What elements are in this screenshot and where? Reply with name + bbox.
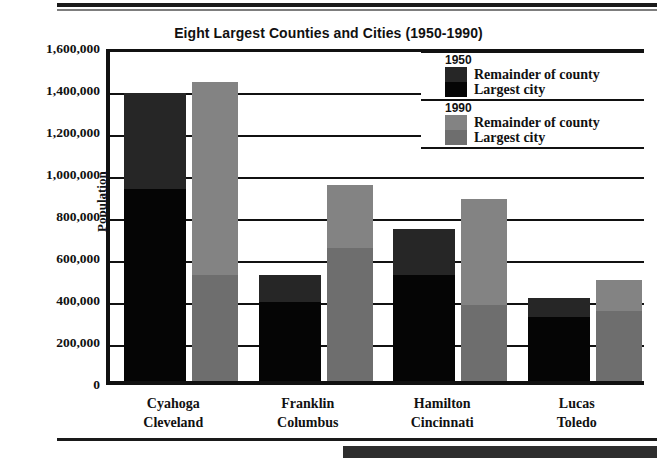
legend-swatch: [445, 115, 467, 130]
segment-1950-largest-city: [259, 302, 321, 381]
top-divider-thick: [57, 3, 657, 7]
legend-item-label: Largest city: [474, 82, 545, 97]
y-axis-tick: 1,600,000: [6, 41, 100, 57]
segment-1950-largest-city: [528, 317, 590, 381]
x-label-city: Toledo: [510, 413, 645, 432]
segment-1990-largest-city: [192, 275, 238, 381]
y-axis-tick: 1,400,000: [6, 83, 100, 99]
x-label-county: Hamilton: [375, 394, 510, 413]
legend-group-1950: 1950Remainder of countyLargest city: [421, 53, 644, 99]
y-axis-tick: 1,000,000: [6, 167, 100, 183]
segment-1950-remainder-of-county: [528, 298, 590, 317]
bar-1950: [124, 93, 186, 381]
segment-1990-largest-city: [461, 305, 507, 381]
x-axis-category-label: CyahogaCleveland: [106, 394, 241, 432]
segment-1990-largest-city: [596, 311, 642, 381]
segment-1950-largest-city: [393, 275, 455, 381]
y-axis-tick: 1,200,000: [6, 125, 100, 141]
bar-group: [110, 52, 245, 381]
y-axis-title: Population: [94, 171, 110, 232]
segment-1990-remainder-of-county: [461, 199, 507, 304]
y-axis-tick: 200,000: [6, 335, 100, 351]
bar-group: [245, 52, 380, 381]
segment-1990-remainder-of-county: [327, 185, 373, 248]
x-axis-category-label: FranklinColumbus: [241, 394, 376, 432]
x-label-county: Cyahoga: [106, 394, 241, 413]
segment-1950-remainder-of-county: [393, 229, 455, 275]
segment-1990-remainder-of-county: [192, 82, 238, 275]
x-label-county: Lucas: [510, 394, 645, 413]
x-axis-category-label: HamiltonCincinnati: [375, 394, 510, 432]
legend-item-label: Remainder of county: [474, 115, 600, 130]
bar-1990: [596, 280, 642, 381]
top-divider-thin: [57, 9, 657, 11]
x-axis-category-label: LucasToledo: [510, 394, 645, 432]
bar-1990: [461, 199, 507, 381]
segment-1950-remainder-of-county: [124, 93, 186, 189]
x-label-city: Cincinnati: [375, 413, 510, 432]
legend-item: Largest city: [421, 130, 644, 145]
legend-swatch: [445, 82, 467, 97]
y-axis-tick: 400,000: [6, 293, 100, 309]
legend-year-label: 1990: [445, 102, 644, 115]
y-axis-tick: 600,000: [6, 251, 100, 267]
legend-item: Remainder of county: [421, 115, 644, 130]
legend-swatch: [445, 67, 467, 82]
legend-group-1990: 1990Remainder of countyLargest city: [421, 101, 644, 147]
bottom-divider: [57, 438, 657, 441]
segment-1990-remainder-of-county: [596, 280, 642, 312]
legend-item-label: Remainder of county: [474, 67, 600, 82]
chart-title: Eight Largest Counties and Cities (1950-…: [0, 25, 657, 41]
x-label-city: Cleveland: [106, 413, 241, 432]
legend-year-label: 1950: [445, 54, 644, 67]
bar-1950: [259, 275, 321, 381]
y-axis-tick: 800,000: [6, 209, 100, 225]
x-label-city: Columbus: [241, 413, 376, 432]
bar-1950: [393, 229, 455, 381]
segment-1950-largest-city: [124, 189, 186, 381]
legend-item: Remainder of county: [421, 67, 644, 82]
chart-legend: 1950Remainder of countyLargest city1990R…: [421, 51, 644, 149]
bar-1990: [327, 185, 373, 381]
segment-1950-remainder-of-county: [259, 275, 321, 302]
legend-divider: [421, 147, 644, 149]
bar-1990: [192, 82, 238, 381]
y-axis-tick: 0: [6, 377, 100, 393]
bar-1950: [528, 298, 590, 381]
legend-swatch: [445, 130, 467, 145]
legend-item: Largest city: [421, 82, 644, 97]
segment-1990-largest-city: [327, 248, 373, 381]
x-label-county: Franklin: [241, 394, 376, 413]
legend-item-label: Largest city: [474, 130, 545, 145]
footer-bar: [343, 446, 657, 458]
